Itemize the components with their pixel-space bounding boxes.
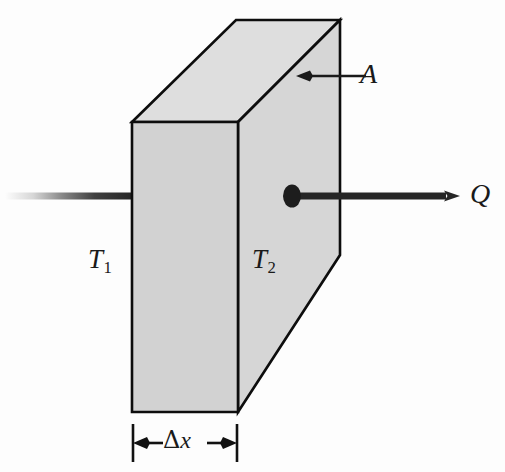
label-thickness-variable: x [180,427,191,453]
label-area: A [360,60,377,88]
label-thickness-delta: Δ [163,426,180,454]
label-temperature-cold-symbol: T [252,244,267,274]
label-temperature-hot-subscript: 1 [103,258,112,277]
label-temperature-hot-symbol: T [88,244,103,274]
incoming-heat-flow-line [5,193,133,200]
label-temperature-cold-subscript: 2 [267,258,276,277]
label-thickness: Δx [163,428,191,452]
label-heat-flow: Q [470,180,490,208]
heat-conduction-figure: T1 T2 Q A Δx [0,0,505,472]
heat-flow-origin-dot [283,185,301,208]
label-temperature-hot: T1 [88,246,112,276]
slab-diagram-canvas [0,0,505,472]
slab-front-face [132,122,238,412]
label-temperature-cold: T2 [252,246,276,276]
